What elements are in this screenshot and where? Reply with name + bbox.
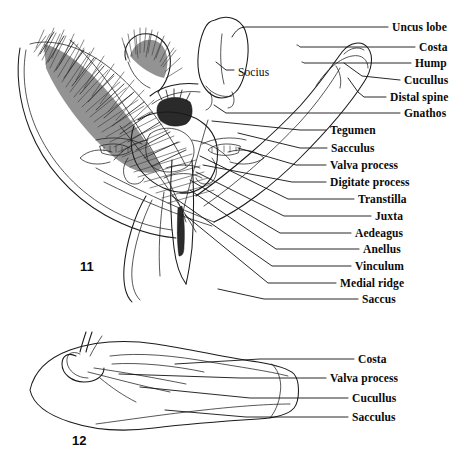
label-distal-spine: Distal spine <box>390 91 448 104</box>
label-tegumen: Tegumen <box>330 124 376 137</box>
label-cucullus: Cucullus <box>404 74 449 86</box>
label-transtilla: Transtilla <box>358 193 407 205</box>
label-anellus: Anellus <box>363 243 401 255</box>
label-fig12-cucullus: Cucullus <box>352 392 397 404</box>
figure-12-leader-lines <box>119 359 354 417</box>
figure-11-drawing <box>18 17 371 302</box>
label-saccus: Saccus <box>362 293 396 305</box>
socius-leader-line <box>216 62 234 70</box>
label-gnathos: Gnathos <box>404 107 447 119</box>
figure-12-drawing <box>30 332 299 430</box>
label-uncus-lobe: Uncus lobe <box>392 21 447 33</box>
label-vinculum: Vinculum <box>355 260 404 272</box>
label-socius: Socius <box>238 66 270 78</box>
label-sacculus: Sacculus <box>331 142 375 154</box>
label-medial-ridge: Medial ridge <box>340 277 404 290</box>
figure-plate: Socius Uncus lobe Costa Hump Cucullus Di… <box>0 0 471 463</box>
figure-number-12: 12 <box>72 433 86 448</box>
figure-number-11: 11 <box>80 259 94 274</box>
label-valva-process: Valva process <box>330 159 398 172</box>
label-hump: Hump <box>415 57 447 70</box>
label-aedeagus: Aedeagus <box>355 227 404 240</box>
label-juxta: Juxta <box>375 210 403 222</box>
label-fig12-valva-process: Valva process <box>330 372 398 385</box>
label-digitate-process: Digitate process <box>330 176 410 189</box>
label-costa: Costa <box>419 41 448 53</box>
illustration-canvas: Socius Uncus lobe Costa Hump Cucullus Di… <box>0 0 471 463</box>
inner-tuft-shading <box>130 40 167 78</box>
label-fig12-costa: Costa <box>358 353 387 365</box>
label-fig12-sacculus: Sacculus <box>352 411 396 423</box>
